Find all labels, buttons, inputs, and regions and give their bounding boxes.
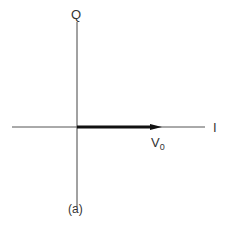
phasor-diagram <box>0 0 229 227</box>
v0-label-subscript: 0 <box>160 142 165 152</box>
v0-label: V0 <box>151 136 165 152</box>
v0-arrowhead-icon <box>150 124 162 130</box>
v0-label-main: V <box>151 135 160 150</box>
i-axis-label: I <box>213 121 217 134</box>
q-axis-label: Q <box>71 8 81 21</box>
figure-caption: (a) <box>68 203 83 215</box>
